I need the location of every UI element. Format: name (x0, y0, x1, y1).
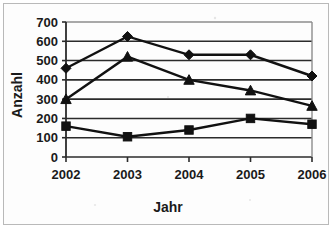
y-tick-label: 100 (36, 130, 58, 145)
chart-canvas: 0100200300400500600700200220032004200520… (0, 0, 334, 230)
x-tick-label: 2006 (298, 167, 327, 182)
data-point-square (308, 120, 316, 128)
y-tick-label: 500 (36, 53, 58, 68)
x-tick-label: 2005 (236, 167, 265, 182)
x-tick-label: 2002 (52, 167, 81, 182)
y-tick-label: 0 (51, 150, 58, 165)
plot-layer: 0100200300400500600700200220032004200520… (36, 15, 326, 183)
y-tick-label: 300 (36, 92, 58, 107)
y-tick-label: 200 (36, 111, 58, 126)
data-point-square (185, 126, 193, 134)
y-tick-label: 700 (36, 15, 58, 30)
data-point-square (123, 133, 131, 141)
data-point-diamond (61, 63, 71, 73)
data-point-square (62, 122, 70, 130)
x-tick-label: 2003 (113, 167, 142, 182)
screenshot-root: 0100200300400500600700200220032004200520… (0, 0, 334, 230)
data-point-triangle (122, 52, 132, 62)
data-point-diamond (246, 50, 256, 60)
x-axis-title: Jahr (153, 199, 183, 215)
y-axis-title: Anzahl (9, 72, 25, 118)
data-point-diamond (123, 31, 133, 41)
x-tick-label: 2004 (175, 167, 205, 182)
series-diamond (61, 31, 317, 81)
y-tick-label: 600 (36, 34, 58, 49)
data-point-diamond (184, 50, 194, 60)
line-chart-figure: 0100200300400500600700200220032004200520… (0, 0, 334, 230)
y-tick-label: 400 (36, 72, 58, 87)
data-point-square (246, 114, 254, 122)
